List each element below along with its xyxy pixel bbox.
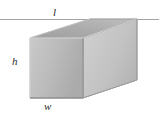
length-label: l [53,7,56,18]
width-label: w [44,101,51,112]
box-front-face [30,38,83,98]
height-label: h [12,56,18,67]
box-diagram: l h w [0,0,159,119]
box-illustration [0,0,159,119]
